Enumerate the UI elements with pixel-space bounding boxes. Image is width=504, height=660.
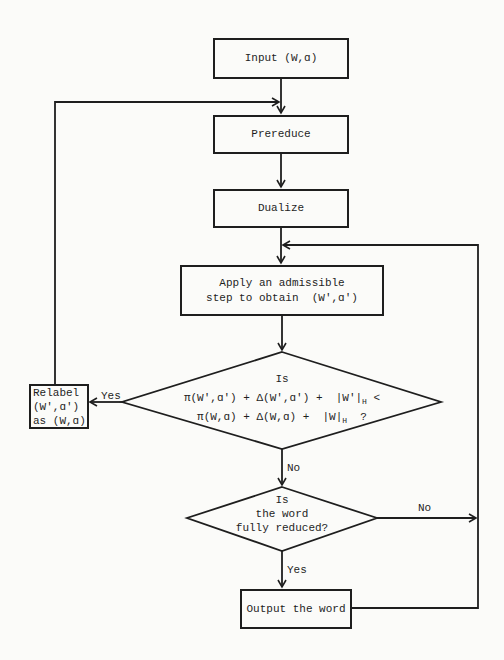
input-label: Input (W,ɑ) [245,51,318,66]
apply-step-box: Apply an admissible step to obtain (W',ɑ… [180,265,384,316]
output-label: Output the word [246,602,345,617]
decision1-line2-lt: < [367,392,380,404]
connector-lines [0,0,504,660]
decision1-line2-expr: π(W',ɑ') + Δ(W',ɑ') + |W'| [184,392,362,404]
prereduce-label: Prereduce [251,127,310,142]
relabel-line2: (W',ɑ') [33,400,79,414]
decision1-line3-expr: π(W,ɑ) + Δ(W,ɑ) + |W| [197,411,342,423]
decision1-line3: π(W,ɑ) + Δ(W,ɑ) + |W|H ? [140,408,424,427]
decision1-text: Is π(W',ɑ') + Δ(W',ɑ') + |W'|H < π(W,ɑ) … [140,370,424,427]
dualize-label: Dualize [258,201,304,216]
apply-line2: step to obtain (W',ɑ') [206,291,358,306]
input-box: Input (W,ɑ) [213,38,349,79]
prereduce-box: Prereduce [213,115,349,154]
dualize-box: Dualize [213,189,349,228]
decision1-line3-q: ? [347,411,367,423]
decision2-line3: fully reduced? [202,521,362,535]
decision2-line1: Is [202,493,362,507]
apply-line1: Apply an admissible [219,276,344,291]
decision1-yes-label: Yes [101,390,121,403]
relabel-line3: as (W,ɑ) [33,414,86,428]
decision1-line1: Is [140,370,424,389]
relabel-box: Relabel (W',ɑ') as (W,ɑ) [29,384,89,429]
output-box: Output the word [240,589,352,629]
decision1-no-label: No [287,462,300,475]
decision2-text: Is the word fully reduced? [202,493,362,535]
decision2-line2: the word [202,507,362,521]
decision2-yes-label: Yes [287,564,307,577]
decision2-no-label: No [418,502,431,515]
decision1-line2: π(W',ɑ') + Δ(W',ɑ') + |W'|H < [140,389,424,408]
decision1-line3-subscript: H [342,416,347,425]
decision1-line2-subscript: H [362,397,367,406]
relabel-line1: Relabel [33,386,79,400]
